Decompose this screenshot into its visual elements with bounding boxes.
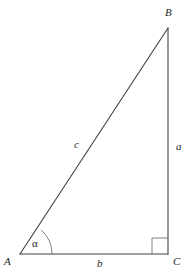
right-angle-square-marker: [152, 238, 168, 254]
vertex-label-c: C: [173, 256, 180, 267]
side-label-a: a: [176, 141, 182, 152]
side-label-b: b: [97, 258, 103, 269]
triangle-drawing: [0, 0, 193, 276]
vertex-label-a: A: [4, 256, 11, 267]
side-label-c: c: [74, 139, 79, 150]
angle-alpha-arc: [41, 230, 52, 254]
angle-label-alpha: α: [32, 238, 38, 249]
vertex-label-b: B: [165, 7, 172, 18]
side-c-hypotenuse-line: [20, 28, 168, 254]
geometry-figure: A B C a b c α: [0, 0, 193, 276]
